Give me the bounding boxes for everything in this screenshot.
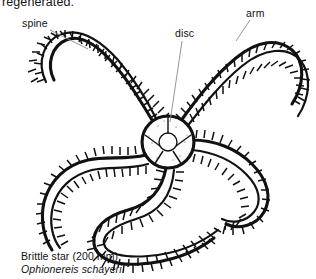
central-disc <box>142 116 194 168</box>
label-disc: disc <box>175 27 194 39</box>
arm-right <box>192 130 270 235</box>
leader-line-arm <box>236 20 250 41</box>
clipped-body-text: regenerated. <box>2 0 74 9</box>
caption-common-name: Brittle star (200 mm) <box>21 250 118 262</box>
arm-upper-left <box>28 30 169 122</box>
label-spine: spine <box>22 17 48 29</box>
caption-scientific-name: Ophionereis schayeri <box>21 263 122 275</box>
arm-upper-right <box>176 41 310 133</box>
leader-line-disc <box>170 41 182 122</box>
label-arm: arm <box>246 7 265 19</box>
brittle-star-illustration <box>0 0 316 279</box>
arm-left <box>36 145 148 250</box>
